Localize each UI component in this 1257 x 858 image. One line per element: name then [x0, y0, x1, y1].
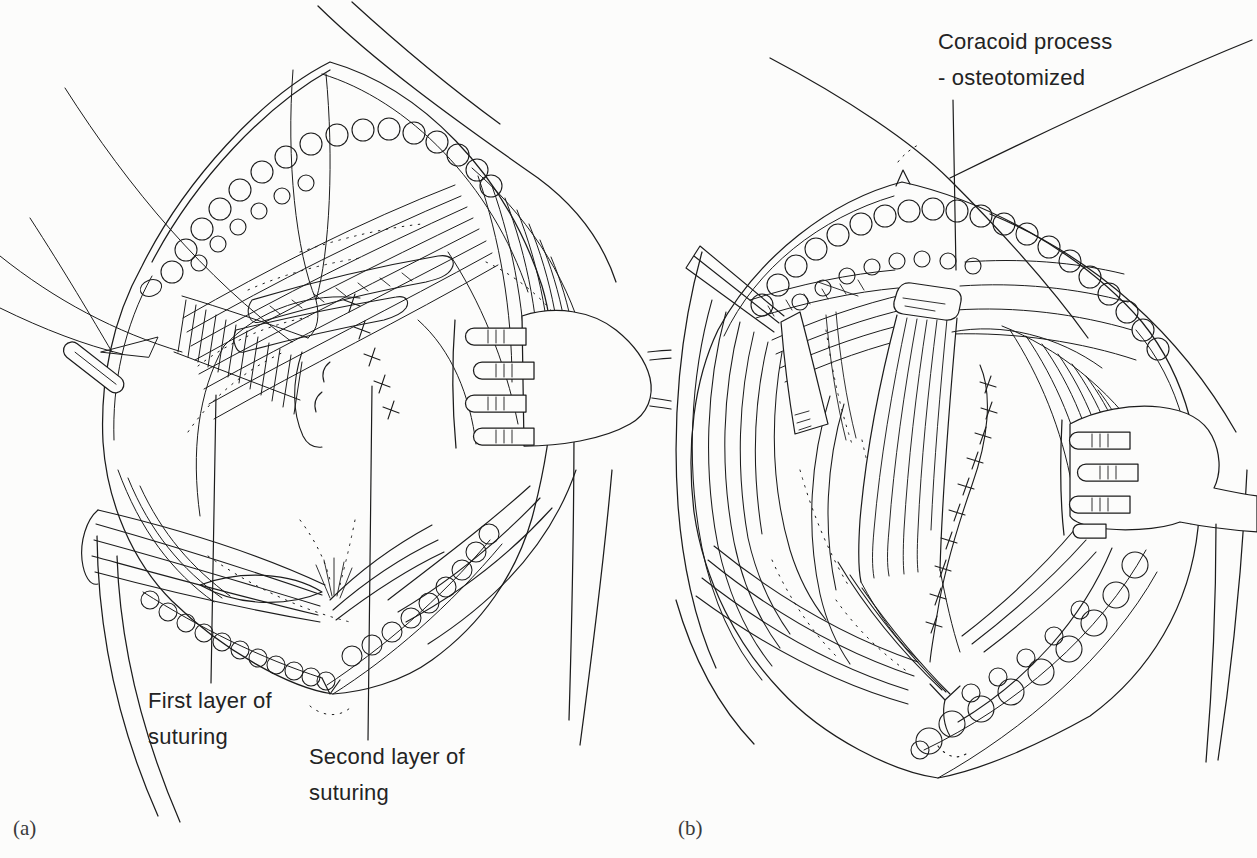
- panel-a-needle-holder: [60, 339, 127, 397]
- rake-strap: [648, 350, 671, 409]
- annotation-coracoid: Coracoid process - osteotomized: [938, 24, 1112, 96]
- rake-prong-ribs: [488, 330, 512, 443]
- panel-b-skin-contours: [676, 40, 1252, 760]
- annotation-second-layer: Second layer of suturing: [309, 739, 465, 811]
- panel-b-conjoint-tendon: [818, 282, 961, 664]
- panel-b-label: (b): [678, 816, 703, 841]
- panel-a-deltoid-fibers: [183, 185, 498, 419]
- panel-b-rake-retractor: [1061, 406, 1257, 762]
- annotation-second-layer-line1: Second layer of: [309, 739, 465, 775]
- annotation-second-layer-line2: suturing: [309, 775, 465, 811]
- figure-page: First layer of suturing Second layer of …: [0, 0, 1257, 858]
- panel-a-rake-retractor: [453, 311, 671, 448]
- panel-a-fat-ridge-bottom: [141, 524, 499, 694]
- panel-a-label: (a): [13, 816, 36, 841]
- annotation-first-layer-line2: suturing: [148, 719, 272, 755]
- panel-a-illustration: [0, 2, 671, 822]
- panel-b-illustration: [676, 40, 1257, 778]
- annotation-first-layer-line1: First layer of: [148, 683, 272, 719]
- panel-a-suture-stitches: [295, 294, 399, 447]
- leader-line-second-layer: [368, 386, 372, 740]
- panel-a-lower-muscle-bundle: [82, 470, 576, 644]
- panel-b-fat-ridge-top: [751, 198, 1169, 360]
- annotation-first-layer: First layer of suturing: [148, 683, 272, 755]
- panel-b-fat-ridge-bottom: [911, 550, 1157, 778]
- annotation-coracoid-line2: - osteotomized: [938, 60, 1112, 96]
- annotation-coracoid-line1: Coracoid process: [938, 24, 1112, 60]
